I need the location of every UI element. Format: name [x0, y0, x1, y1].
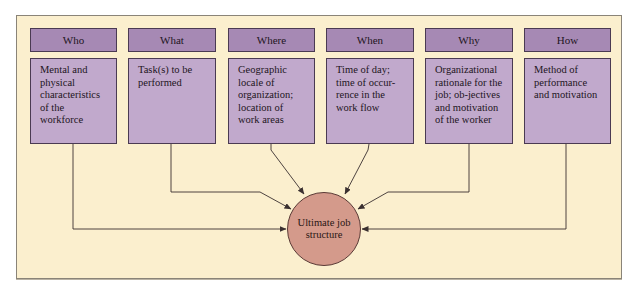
connector-who — [73, 144, 286, 229]
connector-why — [358, 144, 469, 209]
connector-where — [271, 144, 304, 194]
ultimate-job-structure-node: Ultimate job structure — [287, 192, 361, 266]
connector-what — [171, 144, 291, 209]
connector-when — [345, 144, 369, 194]
connector-how — [362, 144, 566, 229]
hub-label: Ultimate job structure — [296, 217, 352, 241]
